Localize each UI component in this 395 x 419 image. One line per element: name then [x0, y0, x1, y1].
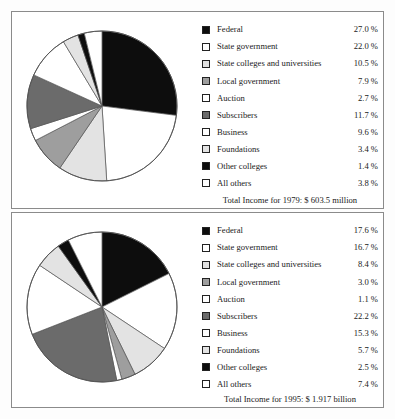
- legend-row: All others3.8 %: [202, 175, 378, 192]
- legend-value: 9.6 %: [344, 128, 378, 137]
- legend-value: 22.0 %: [344, 42, 378, 51]
- legend-row: Local government7.9 %: [202, 72, 378, 89]
- legend-value: 2.7 %: [344, 94, 378, 103]
- legend-row: Auction2.7 %: [202, 89, 378, 106]
- pie-svg-1979: [20, 16, 185, 196]
- legend-1995: Federal17.6 %State government16.7 %State…: [202, 222, 378, 393]
- legend-row: All others7.4 %: [202, 376, 378, 393]
- legend-swatch-icon: [202, 295, 210, 303]
- pie-slice: [102, 106, 176, 181]
- legend-value: 17.6 %: [344, 226, 378, 235]
- legend-1979: Federal27.0 %State government22.0 %State…: [202, 21, 378, 192]
- figure-page: Federal27.0 %State government22.0 %State…: [0, 0, 395, 419]
- legend-label: Subscribers: [217, 312, 344, 321]
- legend-label: Federal: [217, 226, 344, 235]
- legend-swatch-icon: [202, 145, 210, 153]
- chart-panel-1979: Federal27.0 %State government22.0 %State…: [11, 11, 384, 209]
- legend-value: 11.7 %: [344, 111, 378, 120]
- legend-row: Auction1.1 %: [202, 290, 378, 307]
- legend-label: All others: [217, 179, 344, 188]
- legend-swatch-icon: [202, 60, 210, 68]
- legend-row: Local government3.0 %: [202, 273, 378, 290]
- legend-swatch-icon: [202, 261, 210, 269]
- chart-panel-1995: Federal17.6 %State government16.7 %State…: [11, 212, 384, 408]
- legend-swatch-icon: [202, 128, 210, 136]
- legend-label: Federal: [217, 25, 344, 34]
- legend-row: Business9.6 %: [202, 124, 378, 141]
- legend-swatch-icon: [202, 94, 210, 102]
- legend-row: Other colleges1.4 %: [202, 158, 378, 175]
- pie-chart-1979: [20, 16, 185, 196]
- legend-swatch-icon: [202, 43, 210, 51]
- legend-label: All others: [217, 380, 344, 389]
- legend-row: Subscribers22.2 %: [202, 307, 378, 324]
- legend-label: State colleges and universities: [217, 260, 344, 269]
- legend-row: Federal27.0 %: [202, 21, 378, 38]
- legend-row: State government16.7 %: [202, 239, 378, 256]
- legend-value: 3.8 %: [344, 179, 378, 188]
- pie-slice: [102, 31, 177, 115]
- legend-value: 5.7 %: [344, 346, 378, 355]
- legend-swatch-icon: [202, 179, 210, 187]
- legend-label: Business: [217, 128, 344, 137]
- legend-label: State government: [217, 243, 344, 252]
- legend-label: Local government: [217, 278, 344, 287]
- pie-svg-1995: [20, 217, 185, 397]
- legend-label: Local government: [217, 77, 344, 86]
- pie-slices-1995: [27, 232, 177, 382]
- pie-chart-1995: [20, 217, 185, 397]
- legend-row: Subscribers11.7 %: [202, 106, 378, 123]
- legend-label: Subscribers: [217, 111, 344, 120]
- legend-value: 27.0 %: [344, 25, 378, 34]
- legend-value: 7.9 %: [344, 77, 378, 86]
- legend-value: 2.5 %: [344, 363, 378, 372]
- legend-swatch-icon: [202, 346, 210, 354]
- legend-value: 3.4 %: [344, 145, 378, 154]
- legend-value: 7.4 %: [344, 380, 378, 389]
- legend-swatch-icon: [202, 363, 210, 371]
- legend-swatch-icon: [202, 26, 210, 34]
- legend-value: 16.7 %: [344, 243, 378, 252]
- legend-value: 1.4 %: [344, 162, 378, 171]
- legend-swatch-icon: [202, 278, 210, 286]
- legend-swatch-icon: [202, 244, 210, 252]
- legend-label: Other colleges: [217, 363, 344, 372]
- legend-swatch-icon: [202, 227, 210, 235]
- legend-row: Foundations5.7 %: [202, 342, 378, 359]
- legend-row: Foundations3.4 %: [202, 141, 378, 158]
- footer-total-1995: Total Income for 1995: $ 1.917 billion: [202, 394, 378, 404]
- legend-value: 22.2 %: [344, 312, 378, 321]
- legend-swatch-icon: [202, 312, 210, 320]
- legend-label: Auction: [217, 295, 344, 304]
- pie-slices-1979: [27, 31, 177, 181]
- legend-label: Other colleges: [217, 162, 344, 171]
- legend-value: 1.1 %: [344, 295, 378, 304]
- legend-row: State colleges and universities8.4 %: [202, 256, 378, 273]
- legend-value: 3.0 %: [344, 278, 378, 287]
- legend-swatch-icon: [202, 111, 210, 119]
- legend-swatch-icon: [202, 77, 210, 85]
- legend-label: Foundations: [217, 145, 344, 154]
- legend-label: State government: [217, 42, 344, 51]
- legend-row: Business15.3 %: [202, 325, 378, 342]
- legend-swatch-icon: [202, 329, 210, 337]
- legend-row: Federal17.6 %: [202, 222, 378, 239]
- legend-row: State colleges and universities10.5 %: [202, 55, 378, 72]
- footer-total-1979: Total Income for 1979: $ 603.5 million: [202, 195, 378, 205]
- legend-swatch-icon: [202, 162, 210, 170]
- legend-value: 15.3 %: [344, 329, 378, 338]
- legend-swatch-icon: [202, 380, 210, 388]
- legend-label: Foundations: [217, 346, 344, 355]
- legend-label: State colleges and universities: [217, 59, 344, 68]
- legend-value: 8.4 %: [344, 260, 378, 269]
- legend-value: 10.5 %: [344, 59, 378, 68]
- legend-row: State government22.0 %: [202, 38, 378, 55]
- legend-label: Auction: [217, 94, 344, 103]
- legend-row: Other colleges2.5 %: [202, 359, 378, 376]
- legend-label: Business: [217, 329, 344, 338]
